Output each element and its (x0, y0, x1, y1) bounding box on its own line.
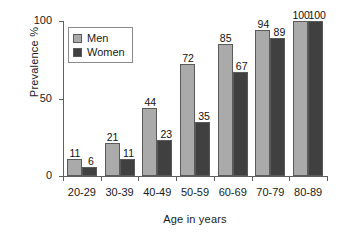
bar-men-70-79: 94 (255, 30, 270, 176)
bar-value-label: 72 (173, 52, 203, 64)
legend-label-women: Women (87, 46, 125, 58)
chart-legend: Men Women (68, 27, 133, 63)
x-tick (289, 176, 290, 181)
bar-women-70-79: 89 (270, 38, 285, 176)
bar-value-label: 23 (151, 128, 181, 140)
y-tick-label: 0 (46, 169, 52, 181)
x-tick (327, 176, 328, 181)
bar-men-80-89: 100 (293, 21, 308, 176)
x-tick (138, 176, 139, 181)
legend-swatch-women-icon (73, 48, 82, 57)
x-axis-category-labels: 20-2930-3940-4950-5960-6970-7980-89 (63, 186, 327, 202)
x-tick (101, 176, 102, 181)
x-tick (176, 176, 177, 181)
y-tick-50: 50 (59, 99, 64, 100)
bar-value-label: 100 (302, 9, 332, 21)
bar-value-label: 11 (114, 147, 144, 159)
bar-value-label: 67 (227, 60, 257, 72)
y-tick-100: 100 (59, 21, 64, 22)
bar-women-40-49: 23 (157, 140, 172, 176)
bar-group: 4423 (142, 21, 172, 176)
bar-group: 9489 (255, 21, 285, 176)
bar-value-label: 35 (189, 110, 219, 122)
x-tick (63, 176, 64, 181)
bar-women-60-69: 67 (233, 72, 248, 176)
bar-women-20-29: 6 (82, 167, 97, 176)
bar-men-40-49: 44 (142, 108, 157, 176)
x-tick (214, 176, 215, 181)
bar-group: 100100 (293, 21, 323, 176)
bar-women-50-59: 35 (195, 122, 210, 176)
bar-value-label: 6 (76, 155, 106, 167)
legend-label-men: Men (87, 32, 108, 44)
legend-item-women: Women (73, 45, 125, 59)
bar-value-label: 44 (135, 96, 165, 108)
x-axis-title: Age in years (63, 213, 327, 225)
legend-swatch-men-icon (73, 34, 82, 43)
legend-item-men: Men (73, 31, 125, 45)
bar-group: 7235 (180, 21, 210, 176)
bar-value-label: 85 (211, 32, 241, 44)
bar-women-80-89: 100 (308, 21, 323, 176)
bar-women-30-39: 11 (120, 159, 135, 176)
x-category-label-80-89: 80-89 (286, 186, 330, 198)
prevalence-by-age-bar-chart: Prevalence % 050100 11621114423723585679… (0, 0, 344, 242)
y-tick-label: 50 (40, 92, 52, 104)
y-tick-label: 100 (34, 14, 52, 26)
bar-group: 8567 (218, 21, 248, 176)
bar-value-label: 89 (264, 26, 294, 38)
x-axis-line (63, 176, 327, 177)
bar-value-label: 21 (98, 131, 128, 143)
x-tick (252, 176, 253, 181)
